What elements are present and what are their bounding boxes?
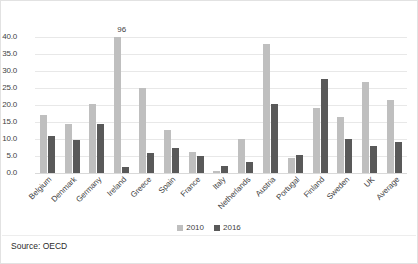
legend-label: 2010 <box>186 223 204 232</box>
y-axis-tick-label: 20.0 <box>0 100 17 109</box>
bar-2016-italy[interactable] <box>221 166 228 173</box>
bar-series-layer: 96 <box>35 37 407 173</box>
x-axis-label-cell: Ireland <box>109 173 134 219</box>
bar-group <box>283 37 308 173</box>
bar-2010-germany[interactable] <box>89 104 96 173</box>
bar-2010-belgium[interactable] <box>40 115 47 173</box>
x-axis-label-cell: Greece <box>134 173 159 219</box>
bar-2010-netherlands[interactable] <box>238 139 245 173</box>
plot-area: 0.05.010.015.020.025.030.035.040.0 96 <box>35 37 407 173</box>
y-axis-tick-label: 35.0 <box>0 49 17 58</box>
bar-2010-finland[interactable] <box>313 108 320 173</box>
legend-swatch-icon <box>177 225 183 231</box>
bar-2010-ireland[interactable] <box>114 37 121 173</box>
bar-2016-denmark[interactable] <box>73 140 80 173</box>
bar-group <box>159 37 184 173</box>
source-note: Source: OECD <box>11 241 67 251</box>
bar-2010-greece[interactable] <box>139 88 146 173</box>
bar-2016-portugal[interactable] <box>296 155 303 173</box>
bar-group <box>258 37 283 173</box>
bar-2016-finland[interactable] <box>321 79 328 173</box>
y-axis-tick-label: 40.0 <box>0 32 17 41</box>
x-axis-label-cell: Spain <box>159 173 184 219</box>
legend-swatch-icon <box>214 225 220 231</box>
bar-group <box>35 37 60 173</box>
y-axis-tick-label: 25.0 <box>0 83 17 92</box>
y-axis-tick-label: 0.0 <box>0 168 17 177</box>
x-axis-tick-label: UK <box>362 175 376 189</box>
bar-group <box>85 37 110 173</box>
y-axis-tick-label: 30.0 <box>0 66 17 75</box>
bar-2016-belgium[interactable] <box>48 136 55 173</box>
bar-2016-greece[interactable] <box>147 153 154 173</box>
x-axis-label-cell: Netherlands <box>233 173 258 219</box>
x-axis-label-cell: Average <box>382 173 407 219</box>
bar-2010-france[interactable] <box>189 152 196 173</box>
bar-group <box>308 37 333 173</box>
bar-2010-average[interactable] <box>387 100 394 173</box>
x-axis-tick-label: Italy <box>211 175 227 191</box>
bar-group: 96 <box>109 37 134 173</box>
chart-legend: 20102016 <box>1 223 417 232</box>
bar-group <box>184 37 209 173</box>
y-axis-tick-label: 15.0 <box>0 117 17 126</box>
bar-2010-spain[interactable] <box>164 130 171 173</box>
bar-2010-austria[interactable] <box>263 44 270 173</box>
bar-group <box>382 37 407 173</box>
bar-2010-portugal[interactable] <box>288 158 295 173</box>
bar-2016-uk[interactable] <box>370 146 377 173</box>
x-axis-tick-label: Ireland <box>105 175 128 198</box>
bar-2016-netherlands[interactable] <box>246 162 253 173</box>
bar-group <box>357 37 382 173</box>
legend-item-2016[interactable]: 2016 <box>214 223 241 232</box>
bar-2016-average[interactable] <box>395 142 402 173</box>
legend-label: 2016 <box>223 223 241 232</box>
bar-group <box>134 37 159 173</box>
bar-group <box>333 37 358 173</box>
bar-2016-spain[interactable] <box>172 148 179 174</box>
x-axis-label-cell: Sweden <box>333 173 358 219</box>
footer-divider <box>2 235 416 236</box>
y-axis-tick-label: 10.0 <box>0 134 17 143</box>
x-axis-tick-label: Spain <box>157 175 177 195</box>
y-axis-tick-label: 5.0 <box>0 151 17 160</box>
bar-data-label: 96 <box>117 25 126 34</box>
bar-2016-sweden[interactable] <box>345 139 352 173</box>
bar-group <box>233 37 258 173</box>
bar-2010-uk[interactable] <box>362 82 369 173</box>
x-axis-label-cell: France <box>184 173 209 219</box>
bar-2016-germany[interactable] <box>97 124 104 173</box>
bar-2010-sweden[interactable] <box>337 117 344 173</box>
chart-container: 0.05.010.015.020.025.030.035.040.0 96 Be… <box>0 0 418 264</box>
bar-2010-denmark[interactable] <box>65 124 72 173</box>
x-axis-label-cell: Germany <box>85 173 110 219</box>
legend-item-2010[interactable]: 2010 <box>177 223 204 232</box>
bar-group <box>60 37 85 173</box>
bar-2016-austria[interactable] <box>271 104 278 173</box>
bar-2016-france[interactable] <box>197 156 204 173</box>
x-axis-labels: BelgiumDenmarkGermanyIrelandGreeceSpainF… <box>35 173 407 219</box>
bar-group <box>209 37 234 173</box>
